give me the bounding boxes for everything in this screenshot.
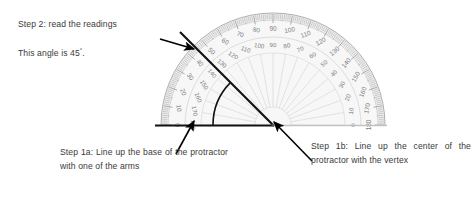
inner-scale-label: 90 — [270, 41, 277, 48]
angle-statement-value: This angle is 45 — [18, 48, 80, 58]
protractor-center-dot — [271, 123, 274, 126]
step1b-caption: Step 1b: Line up the center of the protr… — [311, 140, 471, 167]
step1a-caption: Step 1a: Line up the base of the protrac… — [60, 146, 228, 173]
outer-scale-label: 90 — [269, 25, 277, 32]
angle-statement-period: . — [82, 48, 85, 58]
arrow-to-vertex — [274, 122, 312, 161]
step2-heading: Step 2: read the readings — [18, 18, 117, 32]
angle-statement: This angle is 45°. — [18, 44, 85, 60]
